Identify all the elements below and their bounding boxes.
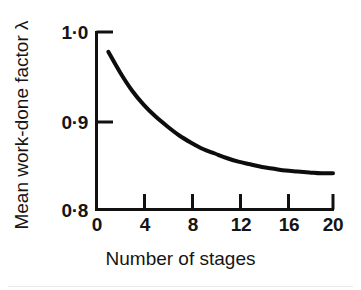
y-tick-label-1-0: 1·0 — [38, 22, 88, 44]
chart-figure: 1·0 0·9 0·8 0 4 8 12 16 20 Number of sta… — [0, 0, 361, 290]
x-tick-label-8: 8 — [173, 214, 213, 236]
x-axis-title: Number of stages — [0, 248, 361, 270]
x-tick-label-16: 16 — [269, 214, 309, 236]
y-tick-label-0-9: 0·9 — [38, 112, 88, 134]
x-tick-label-0: 0 — [77, 214, 117, 236]
page-bottom-rule — [8, 286, 353, 287]
x-tick-label-12: 12 — [221, 214, 261, 236]
x-tick-label-20: 20 — [313, 214, 353, 236]
y-axis-title: Mean work-done factor λ — [11, 10, 33, 240]
data-series-line — [108, 52, 333, 174]
x-tick-label-4: 4 — [125, 214, 165, 236]
